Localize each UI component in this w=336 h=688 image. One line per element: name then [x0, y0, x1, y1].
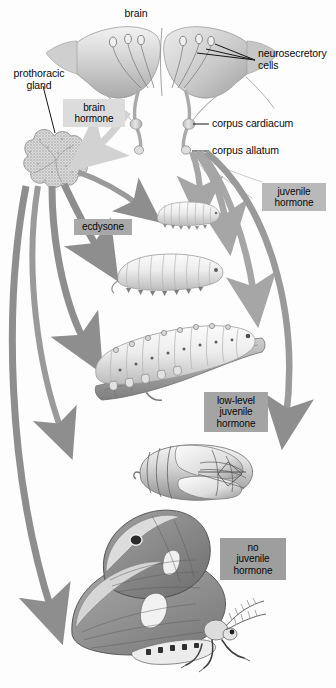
- label-corpus-allatum: corpus allatum: [212, 145, 332, 157]
- larva-instar-1-art: [157, 202, 219, 230]
- label-prothoracic-gland: prothoracic gland: [0, 68, 78, 91]
- adult-moth-art: [72, 510, 266, 672]
- chip-brain-hormone: brain hormone: [63, 99, 125, 127]
- chip-no-juvenile-hormone: no juvenile hormone: [220, 538, 286, 580]
- label-corpus-cardiacum: corpus cardiacum: [212, 118, 332, 130]
- chip-low-level-juvenile-hormone: low-level juvenile hormone: [204, 392, 268, 432]
- figure-canvas: brain neurosecretory cells prothoracic g…: [0, 0, 336, 688]
- larva-instar-3-art: [95, 323, 265, 400]
- metamorphosis-illustration: [0, 0, 336, 688]
- label-brain: brain: [108, 8, 164, 20]
- pupa-art: [134, 445, 253, 501]
- label-neurosecretory-cells: neurosecretory cells: [258, 48, 336, 71]
- corpus-cardiacum-art: [130, 119, 195, 129]
- prothoracic-gland-art: [24, 129, 90, 187]
- chip-juvenile-hormone: juvenile hormone: [262, 183, 326, 211]
- chip-ecdysone: ecdysone: [74, 219, 132, 235]
- larva-instar-2-art: [112, 254, 223, 296]
